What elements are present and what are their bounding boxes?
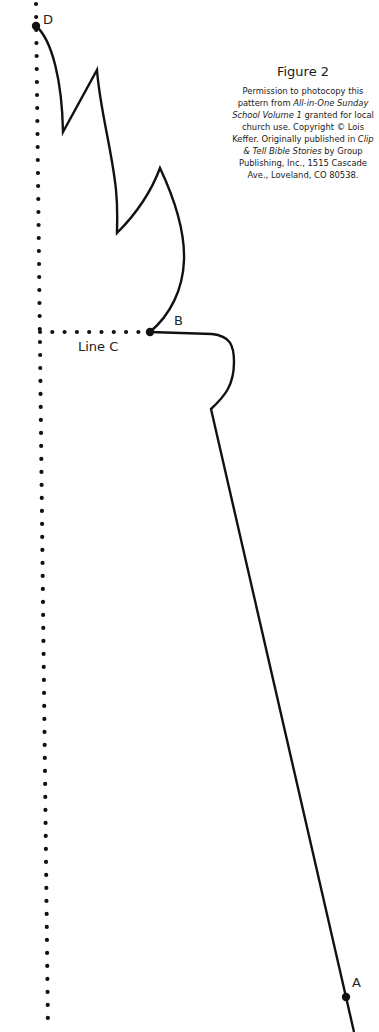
point-a-marker — [342, 993, 350, 1001]
flame-outline — [36, 26, 184, 332]
point-d-label: D — [43, 12, 53, 27]
figure-title: Figure 2 — [228, 64, 378, 79]
line-c-label: Line C — [78, 339, 118, 354]
point-b-label: B — [174, 313, 183, 328]
dotted-fold-line-vertical — [36, 4, 48, 1030]
permission-text: Permission to photocopy this pattern fro… — [228, 85, 378, 181]
handle-outline — [150, 332, 354, 1032]
point-d-marker — [32, 22, 40, 30]
figure-caption: Figure 2 Permission to photocopy this pa… — [228, 64, 378, 181]
point-a-label: A — [352, 975, 361, 990]
point-b-marker — [146, 328, 154, 336]
